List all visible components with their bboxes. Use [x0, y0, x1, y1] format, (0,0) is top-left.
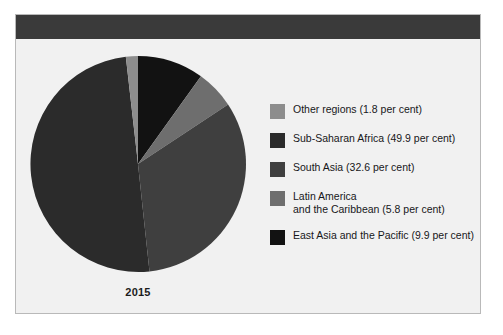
pie-slice-group: [30, 56, 246, 272]
legend-swatch-other-regions: [270, 104, 285, 119]
legend-label-east-asia-pacific: East Asia and the Pacific (9.9 per cent): [293, 229, 474, 242]
legend-swatch-latin-america-caribbean: [270, 191, 285, 206]
legend-swatch-south-asia: [270, 162, 285, 177]
legend-swatch-east-asia-pacific: [270, 230, 285, 245]
chart-year-label: 2015: [28, 286, 248, 298]
legend-label-latin-america-caribbean: Latin America and the Caribbean (5.8 per…: [293, 190, 445, 216]
legend-swatch-sub-saharan-africa: [270, 133, 285, 148]
legend-label-other-regions: Other regions (1.8 per cent): [293, 103, 422, 116]
legend-label-sub-saharan-africa: Sub-Saharan Africa (49.9 per cent): [293, 132, 455, 145]
legend-item-other-regions[interactable]: Other regions (1.8 per cent): [270, 103, 476, 119]
legend-item-east-asia-pacific[interactable]: East Asia and the Pacific (9.9 per cent): [270, 229, 476, 245]
legend-label-south-asia: South Asia (32.6 per cent): [293, 161, 414, 174]
chart-figure: 2015 Other regions (1.8 per cent) Sub-Sa…: [15, 14, 481, 314]
legend-item-latin-america-caribbean[interactable]: Latin America and the Caribbean (5.8 per…: [270, 190, 476, 216]
pie-chart-svg: [28, 54, 248, 274]
figure-header-bar: [16, 15, 480, 39]
chart-legend: Other regions (1.8 per cent) Sub-Saharan…: [270, 103, 476, 245]
legend-item-south-asia[interactable]: South Asia (32.6 per cent): [270, 161, 476, 177]
chart-plot-area: 2015 Other regions (1.8 per cent) Sub-Sa…: [16, 39, 480, 313]
pie-chart: [28, 54, 248, 274]
legend-item-sub-saharan-africa[interactable]: Sub-Saharan Africa (49.9 per cent): [270, 132, 476, 148]
